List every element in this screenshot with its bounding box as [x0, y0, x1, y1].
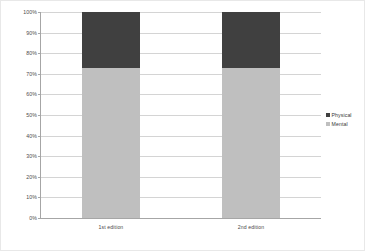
- y-axis-tickmark: [38, 53, 41, 54]
- y-axis-tick-label: 90%: [26, 30, 37, 36]
- legend-label: Mental: [332, 121, 348, 127]
- y-axis-tick-label: 60%: [26, 91, 37, 97]
- y-axis-tickmark: [38, 12, 41, 13]
- y-axis-tickmark: [38, 177, 41, 178]
- y-axis-tickmark: [38, 156, 41, 157]
- y-axis-tick-label: 70%: [26, 71, 37, 77]
- x-axis-category-label: 2nd edition: [238, 224, 264, 230]
- legend-item-mental[interactable]: Mental: [326, 121, 352, 127]
- y-axis-tick-label: 100%: [23, 9, 37, 15]
- y-axis-tick-label: 20%: [26, 174, 37, 180]
- y-axis-tickmark: [38, 115, 41, 116]
- bar-group[interactable]: 1st edition: [82, 12, 141, 218]
- y-axis-tick-label: 10%: [26, 194, 37, 200]
- y-axis-tick-label: 80%: [26, 50, 37, 56]
- plot-area: 0%10%20%30%40%50%60%70%80%90%100% 1st ed…: [40, 12, 321, 219]
- legend-item-physical[interactable]: Physical: [326, 112, 352, 118]
- bar-group[interactable]: 2nd edition: [222, 12, 281, 218]
- y-axis-tick-label: 0%: [29, 215, 37, 221]
- bar-segment-mental[interactable]: [222, 68, 281, 218]
- bar-segment-physical[interactable]: [82, 12, 141, 68]
- y-axis-tickmark: [38, 94, 41, 95]
- bar-segment-physical[interactable]: [222, 12, 281, 68]
- y-axis-tickmark: [38, 74, 41, 75]
- legend-label: Physical: [332, 112, 352, 118]
- x-axis-category-label: 1st edition: [99, 224, 124, 230]
- y-axis-tickmark: [38, 197, 41, 198]
- y-axis-tick-label: 50%: [26, 112, 37, 118]
- legend-swatch-icon: [326, 122, 330, 126]
- bar-stack: [82, 12, 141, 218]
- bar-stack: [222, 12, 281, 218]
- stacked-bar-chart: 0%10%20%30%40%50%60%70%80%90%100% 1st ed…: [0, 0, 365, 251]
- y-axis-tick-label: 30%: [26, 153, 37, 159]
- legend-swatch-icon: [326, 113, 330, 117]
- y-axis-tickmark: [38, 218, 41, 219]
- bar-segment-mental[interactable]: [82, 68, 141, 218]
- y-axis-tick-label: 40%: [26, 133, 37, 139]
- y-axis-tickmark: [38, 33, 41, 34]
- y-axis-tickmark: [38, 136, 41, 137]
- chart-legend: PhysicalMental: [326, 112, 352, 127]
